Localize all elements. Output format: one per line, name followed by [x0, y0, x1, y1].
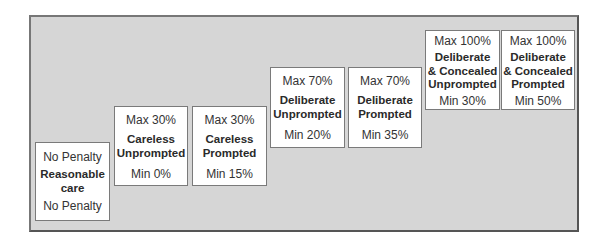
step-max: Max 100% [434, 34, 491, 48]
step-min: Min 30% [439, 94, 486, 108]
step-reasonable-care: No Penalty Reasonable care No Penalty [35, 142, 110, 221]
step-min: Min 50% [515, 94, 562, 108]
step-min: Min 35% [362, 128, 409, 142]
step-max: Max 70% [360, 74, 410, 88]
step-max: Max 30% [204, 113, 254, 127]
step-min: Min 20% [284, 128, 331, 142]
step-max: Max 100% [510, 34, 567, 48]
step-title: Deliberate Unprompted [273, 94, 341, 121]
step-title: Careless Prompted [203, 133, 257, 160]
step-deliberate-unprompted: Max 70% Deliberate Unprompted Min 20% [270, 67, 345, 148]
step-title: Reasonable care [40, 168, 105, 195]
step-min: Min 15% [206, 167, 253, 181]
step-deliberate-concealed-prompted: Max 100% Deliberate & Concealed Prompted… [501, 30, 575, 110]
step-title: Deliberate & Concealed Prompted [503, 51, 573, 92]
step-title: Deliberate Prompted [357, 94, 413, 121]
step-min: Min 0% [131, 167, 171, 181]
step-title: Careless Unprompted [117, 133, 185, 160]
step-max: Max 70% [282, 74, 332, 88]
step-min: No Penalty [43, 199, 102, 213]
step-deliberate-prompted: Max 70% Deliberate Prompted Min 35% [348, 67, 422, 148]
step-title: Deliberate & Concealed Unprompted [428, 51, 498, 92]
step-careless-prompted: Max 30% Careless Prompted Min 15% [192, 106, 267, 186]
step-max: Max 30% [126, 113, 176, 127]
step-max: No Penalty [43, 150, 102, 164]
step-careless-unprompted: Max 30% Careless Unprompted Min 0% [114, 106, 188, 186]
step-deliberate-concealed-unprompted: Max 100% Deliberate & Concealed Unprompt… [425, 30, 500, 110]
